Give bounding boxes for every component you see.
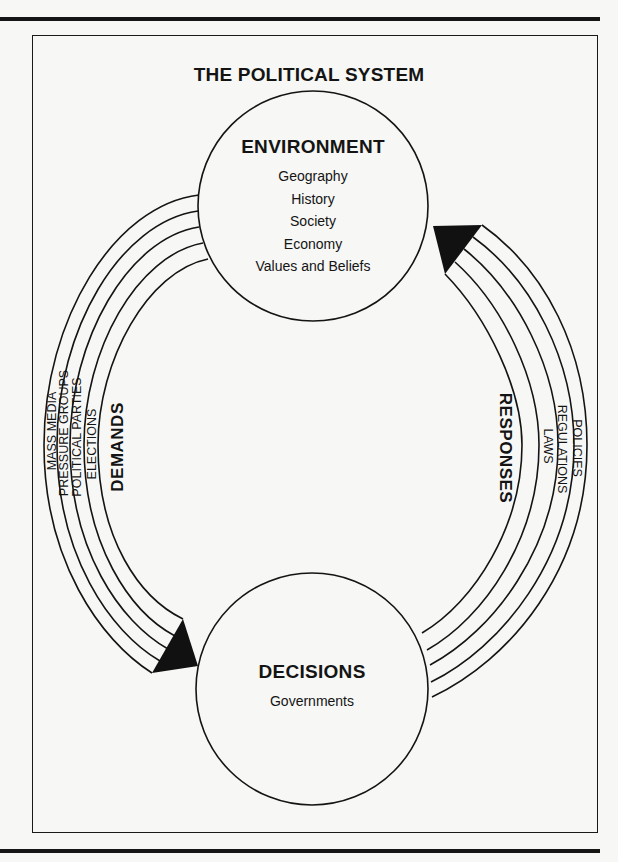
channel-label-political-parties: POLITICAL PARTIES: [70, 377, 84, 496]
environment-item: Geography: [198, 165, 428, 188]
environment-heading: ENVIRONMENT: [198, 136, 428, 158]
diagram-title: THE POLITICAL SYSTEM: [0, 64, 618, 86]
channel-label-pressure-groups: PRESSURE GROUPS: [57, 370, 71, 496]
environment-node: ENVIRONMENT Geography History Society Ec…: [198, 136, 428, 278]
channel-label-regulations: REGULATIONS: [555, 405, 569, 494]
demands-arrowhead-icon: [152, 619, 198, 673]
bottom-rule: [0, 849, 600, 853]
environment-item: History: [198, 188, 428, 211]
environment-item: Values and Beliefs: [198, 255, 428, 278]
channel-label-policies: POLICIES: [570, 419, 584, 477]
environment-item: Economy: [198, 233, 428, 256]
decisions-node: DECISIONS Governments: [196, 661, 428, 713]
channel-label-elections: ELECTIONS: [85, 409, 99, 480]
environment-item: Society: [198, 210, 428, 233]
responses-label: RESPONSES: [495, 393, 515, 503]
decisions-heading: DECISIONS: [196, 661, 428, 683]
demands-label: DEMANDS: [108, 402, 128, 491]
decisions-item: Governments: [196, 690, 428, 713]
responses-arrowhead-icon: [433, 225, 482, 274]
channel-label-laws: LAWS: [541, 429, 555, 464]
